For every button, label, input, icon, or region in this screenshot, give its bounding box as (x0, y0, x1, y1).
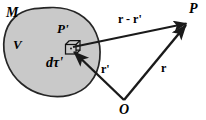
vector-r (124, 25, 186, 100)
magnetized-body-region (4, 7, 100, 96)
source-point-marker (70, 48, 72, 50)
label-volume-V: V (13, 38, 22, 51)
label-material-M: M (6, 6, 18, 20)
figure-canvas: M V P' dτ' P O r - r' r' r (0, 0, 206, 120)
label-volume-element-dtau-prime: dτ' (46, 56, 63, 70)
vector-diagram-graphics (0, 0, 206, 120)
label-origin-O: O (119, 103, 129, 117)
label-field-point-P: P (189, 2, 198, 16)
label-vector-r-minus-r-prime: r - r' (118, 13, 142, 25)
label-source-point-P-prime: P' (57, 22, 69, 35)
label-vector-r-prime: r' (101, 63, 110, 75)
label-vector-r: r (161, 62, 166, 74)
